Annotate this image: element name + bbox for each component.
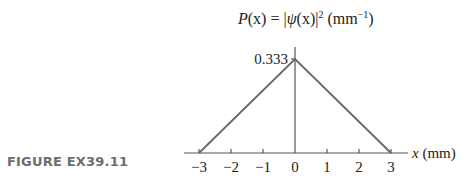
- y-axis-label: P(x) = |ψ(x)|2 (mm−1): [237, 9, 374, 28]
- svg-text:−3: −3: [191, 159, 207, 175]
- svg-text:1: 1: [323, 159, 331, 175]
- y-tick-label: 0.333: [254, 51, 288, 67]
- x-tick-labels: −3 −2 −1 0 1 2 3: [191, 159, 395, 175]
- svg-text:−2: −2: [223, 159, 239, 175]
- probability-chart: P(x) = |ψ(x)|2 (mm−1) 0.333 −3 −2 −1 0 1…: [0, 0, 472, 192]
- svg-text:2: 2: [355, 159, 363, 175]
- svg-text:3: 3: [387, 159, 395, 175]
- svg-text:0: 0: [291, 159, 299, 175]
- x-axis-label: x (mm): [411, 145, 456, 162]
- svg-text:−1: −1: [255, 159, 271, 175]
